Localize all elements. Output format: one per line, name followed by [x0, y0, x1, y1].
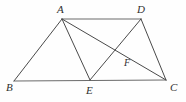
segment-AB: [14, 19, 62, 81]
vertex-label-C: C: [170, 82, 177, 93]
segment-DE: [90, 19, 141, 80]
vertex-label-D: D: [137, 4, 145, 15]
vertex-label-A: A: [57, 4, 64, 15]
edges-group: [14, 19, 166, 81]
vertex-label-B: B: [6, 82, 13, 93]
segment-AC: [62, 19, 166, 80]
vertex-label-F: F: [124, 57, 130, 68]
figure-canvas: [0, 0, 186, 102]
segment-DC: [141, 19, 166, 80]
vertex-label-E: E: [86, 85, 93, 96]
segment-AE: [62, 19, 90, 80]
geometry-figure: A B C D E F: [0, 0, 186, 102]
